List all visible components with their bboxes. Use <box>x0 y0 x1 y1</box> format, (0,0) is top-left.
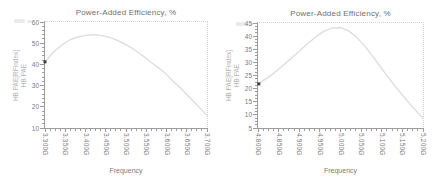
x-axis-label: Frequency <box>301 166 381 175</box>
y-minor-tick <box>255 121 257 122</box>
x-minor-tick <box>263 129 264 131</box>
x-tick-label: 5.100G <box>379 133 386 156</box>
y-minor-tick <box>255 55 257 56</box>
x-minor-tick <box>397 129 398 131</box>
pae-plots-panel: Power-Added Efficiency, % HB PAE[RFindex… <box>0 0 435 183</box>
x-major-tick <box>361 128 362 132</box>
x-minor-tick <box>412 129 413 131</box>
y-minor-tick <box>255 42 257 43</box>
plot-area <box>257 22 424 129</box>
x-minor-tick <box>309 129 310 131</box>
y-tick-label: 30 <box>234 59 252 66</box>
x-tick-label: 5.200G <box>420 133 427 156</box>
y-major-tick <box>253 49 257 50</box>
y-minor-tick <box>255 45 257 46</box>
x-tick-label: 5.150G <box>399 133 406 156</box>
y-major-tick <box>253 36 257 37</box>
y-major-tick <box>253 23 257 24</box>
y-tick-label: 35 <box>234 46 252 53</box>
x-major-tick <box>299 128 300 132</box>
x-tick-label: 4.950G <box>317 133 324 156</box>
x-tick-label: 4.850G <box>276 133 283 156</box>
y-minor-tick <box>255 98 257 99</box>
x-minor-tick <box>330 129 331 131</box>
x-minor-tick <box>350 129 351 131</box>
x-major-tick <box>340 128 341 132</box>
y-major-tick <box>253 128 257 129</box>
y-minor-tick <box>255 82 257 83</box>
x-minor-tick <box>355 129 356 131</box>
y-major-tick <box>253 62 257 63</box>
x-minor-tick <box>345 129 346 131</box>
y-minor-tick <box>255 95 257 96</box>
y-minor-tick <box>255 65 257 66</box>
y-minor-tick <box>255 111 257 112</box>
y-minor-tick <box>255 105 257 106</box>
chart-title: Power-Added Efficiency, % <box>261 9 421 19</box>
y-minor-tick <box>255 124 257 125</box>
y-axis-label-line1: HB PAE[RFindex] <box>225 21 233 131</box>
x-major-tick <box>258 128 259 132</box>
y-minor-tick <box>255 52 257 53</box>
y-tick-label: 25 <box>234 72 252 79</box>
x-minor-tick <box>283 129 284 131</box>
trace-start-marker <box>257 82 260 85</box>
x-minor-tick <box>325 129 326 131</box>
x-minor-tick <box>392 129 393 131</box>
y-tick-label: 15 <box>234 98 252 105</box>
x-minor-tick <box>366 129 367 131</box>
x-minor-tick <box>386 129 387 131</box>
x-minor-tick <box>371 129 372 131</box>
x-minor-tick <box>273 129 274 131</box>
x-minor-tick <box>376 129 377 131</box>
y-tick-label: 40 <box>234 33 252 40</box>
x-major-tick <box>278 128 279 132</box>
y-minor-tick <box>255 108 257 109</box>
x-minor-tick <box>407 129 408 131</box>
y-major-tick <box>253 114 257 115</box>
y-minor-tick <box>255 118 257 119</box>
x-minor-tick <box>304 129 305 131</box>
y-minor-tick <box>255 68 257 69</box>
chart-canvas <box>258 23 423 128</box>
y-minor-tick <box>255 72 257 73</box>
x-major-tick <box>402 128 403 132</box>
x-major-tick <box>423 128 424 132</box>
y-minor-tick <box>255 91 257 92</box>
y-minor-tick <box>255 39 257 40</box>
y-tick-label: 20 <box>234 85 252 92</box>
y-tick-label: 45 <box>234 20 252 27</box>
y-tick-label: 5 <box>234 125 252 132</box>
pae-chart-right: Power-Added Efficiency, % HB PAE[RFindex… <box>0 0 435 183</box>
x-minor-tick <box>314 129 315 131</box>
x-tick-label: 5.050G <box>358 133 365 156</box>
x-minor-tick <box>335 129 336 131</box>
y-minor-tick <box>255 32 257 33</box>
x-minor-tick <box>268 129 269 131</box>
y-minor-tick <box>255 26 257 27</box>
y-minor-tick <box>255 78 257 79</box>
y-major-tick <box>253 75 257 76</box>
x-tick-label: 4.800G <box>255 133 262 156</box>
y-major-tick <box>253 88 257 89</box>
y-minor-tick <box>255 29 257 30</box>
x-minor-tick <box>417 129 418 131</box>
y-tick-label: 10 <box>234 111 252 118</box>
x-minor-tick <box>294 129 295 131</box>
y-major-tick <box>253 101 257 102</box>
x-minor-tick <box>288 129 289 131</box>
x-major-tick <box>381 128 382 132</box>
y-minor-tick <box>255 59 257 60</box>
x-major-tick <box>319 128 320 132</box>
y-minor-tick <box>255 85 257 86</box>
x-tick-label: 5.000G <box>338 133 345 156</box>
pae-curve <box>258 28 423 119</box>
x-tick-label: 4.900G <box>296 133 303 156</box>
